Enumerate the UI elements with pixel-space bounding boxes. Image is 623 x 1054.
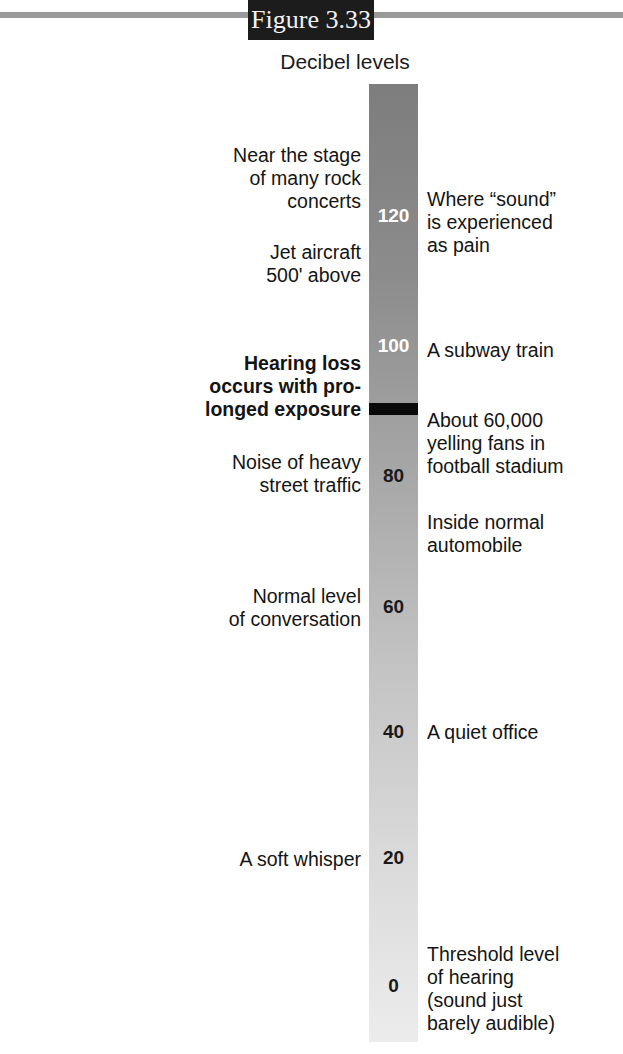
label-stadium-fans: About 60,000 yelling fans in football st…	[427, 409, 564, 478]
tick-100: 100	[369, 335, 418, 357]
figure-label: Figure 3.33	[248, 0, 374, 40]
label-street-traffic: Noise of heavy street traffic	[232, 451, 361, 497]
label-automobile: Inside normal automobile	[427, 511, 544, 557]
tick-40: 40	[369, 721, 418, 743]
label-jet-aircraft: Jet aircraft 500' above	[266, 241, 361, 287]
tick-20: 20	[369, 847, 418, 869]
hearing-loss-threshold-marker	[369, 403, 418, 415]
label-subway-train: A subway train	[427, 339, 554, 362]
tick-120: 120	[369, 205, 418, 227]
label-soft-whisper: A soft whisper	[240, 848, 361, 871]
label-hearing-threshold: Threshold level of hearing (sound just b…	[427, 943, 559, 1035]
label-pain-threshold: Where “sound” is experienced as pain	[427, 188, 556, 257]
label-quiet-office: A quiet office	[427, 721, 538, 744]
diagram-title: Decibel levels	[260, 50, 430, 74]
label-conversation: Normal level of conversation	[229, 585, 361, 631]
label-rock-concerts: Near the stage of many rock concerts	[233, 144, 361, 213]
tick-0: 0	[369, 975, 418, 997]
label-hearing-loss: Hearing loss occurs with pro- longed exp…	[205, 352, 361, 421]
tick-80: 80	[369, 465, 418, 487]
decibel-scale-bar	[369, 84, 418, 1042]
tick-60: 60	[369, 596, 418, 618]
